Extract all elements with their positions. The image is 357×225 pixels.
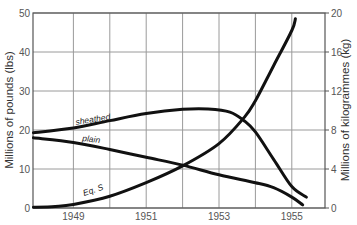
y-tick-label: 20 [19, 125, 31, 136]
x-tick-label: 1955 [281, 211, 304, 222]
label-eq-s: Eq. S [82, 182, 105, 198]
y-tick-label: 0 [24, 203, 30, 214]
x-tick-label: 1953 [208, 211, 231, 222]
series-eq-s [33, 19, 295, 207]
x-axis-ticks: 1949195119531955 [62, 211, 303, 222]
right-axis-title: Millions of kilogrammes (kg) [339, 39, 351, 182]
y-tick-label: 40 [19, 47, 31, 58]
y-right-tick-label: 0 [331, 203, 337, 214]
y-tick-label: 30 [19, 86, 31, 97]
curves [33, 19, 306, 207]
left-axis-title: Millions of pounds (lbs) [3, 51, 15, 169]
y-tick-label: 10 [19, 164, 31, 175]
left-axis-ticks: 01020304050 [19, 8, 31, 214]
y-right-tick-label: 20 [331, 8, 343, 19]
label-plain: plain [81, 133, 101, 145]
line-chart: 01020304050 048121620 1949195119531955 M… [0, 0, 357, 225]
y-tick-label: 50 [19, 8, 31, 19]
x-tick-label: 1949 [62, 211, 85, 222]
x-tick-label: 1951 [135, 211, 158, 222]
y-right-tick-label: 4 [331, 164, 337, 175]
y-right-tick-label: 8 [331, 125, 337, 136]
